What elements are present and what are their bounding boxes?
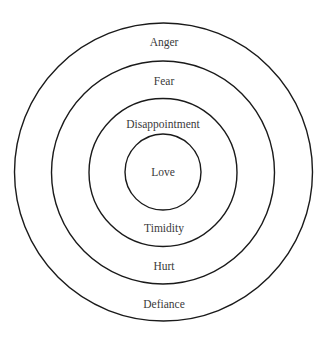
label-fear: Fear xyxy=(154,75,175,87)
label-love: Love xyxy=(151,166,175,178)
label-defiance: Defiance xyxy=(143,298,185,310)
label-timidity: Timidity xyxy=(144,222,184,235)
concentric-emotions-diagram: Anger Fear Disappointment Love Timidity … xyxy=(0,0,322,339)
label-disappointment: Disappointment xyxy=(126,118,200,131)
label-anger: Anger xyxy=(150,36,179,49)
label-hurt: Hurt xyxy=(153,260,175,272)
